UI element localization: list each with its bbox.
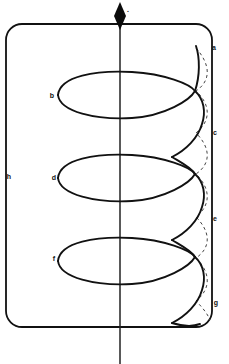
apex-diamond-icon (114, 2, 126, 30)
coil-2-lower-arc (58, 174, 195, 201)
label-a: a (212, 44, 216, 51)
coil-1-upper-arc (58, 72, 195, 95)
coil-2-right-bulge (172, 174, 204, 240)
label-b: b (50, 92, 54, 99)
label-f: f (53, 255, 56, 262)
connector-a-arc (195, 46, 199, 91)
label-e: e (213, 215, 217, 222)
coil-3-right-bulge (172, 257, 204, 323)
coil-1-right-bulge (172, 91, 204, 157)
outer-boundary-rect (6, 24, 212, 327)
coil-1-lower-arc (58, 91, 195, 118)
label-c: c (213, 129, 217, 136)
label-h: h (7, 173, 11, 180)
dashed-guide-arc (196, 48, 210, 320)
label-d: d (52, 174, 56, 181)
label-apex: . (127, 6, 129, 13)
label-g: g (214, 299, 218, 307)
connector-g-arc (172, 323, 200, 326)
coil-3-lower-arc (58, 257, 195, 284)
helix-diagram: . a b c d e f g h (0, 0, 229, 364)
